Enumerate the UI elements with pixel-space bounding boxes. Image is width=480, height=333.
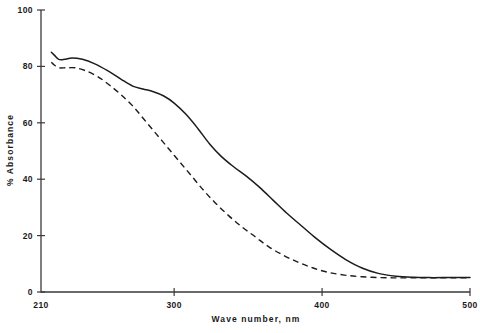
- chart-canvas: 020406080100 210300400500 Wave number, n…: [0, 0, 480, 333]
- absorbance-spectrum-chart: 020406080100 210300400500 Wave number, n…: [0, 0, 480, 333]
- y-tick-label: 60: [23, 118, 33, 128]
- series-solid-curve: [51, 52, 470, 277]
- x-tick-label: 500: [462, 300, 477, 310]
- series-group: [51, 52, 470, 278]
- y-tick-label: 20: [23, 231, 33, 241]
- y-tick-label: 100: [18, 5, 33, 15]
- y-tick-label: 0: [28, 287, 33, 297]
- x-tick-label: 400: [314, 300, 329, 310]
- x-axis-ticks: 210300400500: [33, 288, 477, 310]
- x-tick-label: 300: [166, 300, 181, 310]
- x-tick-label: 210: [33, 300, 48, 310]
- axis-lines: [41, 10, 470, 292]
- x-axis-title: Wave number, nm: [212, 314, 301, 324]
- y-axis-title: % Absorbance: [5, 114, 15, 186]
- y-tick-label: 40: [23, 174, 33, 184]
- series-dashed-curve: [51, 62, 470, 278]
- y-tick-label: 80: [23, 61, 33, 71]
- axes-group: [41, 10, 470, 292]
